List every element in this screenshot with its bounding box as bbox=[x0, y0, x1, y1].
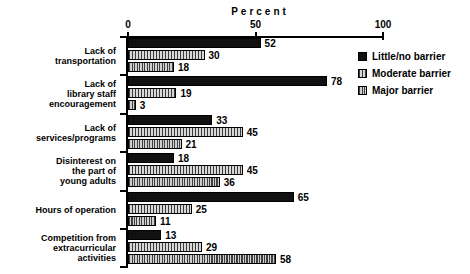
bar-0 bbox=[128, 230, 161, 240]
bar-1 bbox=[128, 204, 192, 214]
x-tick-label: 0 bbox=[113, 19, 143, 30]
legend-item-little-no-barrier: Little/no barrier bbox=[358, 48, 451, 65]
category-label: Lack of services/programs bbox=[0, 123, 116, 143]
category-label: Disinterest on the part of young adults bbox=[0, 156, 116, 186]
category-label: Competition from extracurricular activit… bbox=[0, 233, 116, 263]
bar-value-label: 13 bbox=[165, 231, 176, 241]
legend-item-moderate-barrier: Moderate barrier bbox=[358, 65, 451, 82]
bar-value-label: 30 bbox=[209, 51, 220, 61]
bar-value-label: 19 bbox=[180, 89, 191, 99]
legend-swatch-icon bbox=[358, 52, 367, 61]
bar-value-label: 52 bbox=[265, 39, 276, 49]
bar-value-label: 18 bbox=[178, 63, 189, 73]
bar-value-label: 3 bbox=[140, 101, 146, 111]
y-tick-mark bbox=[120, 190, 127, 192]
bar-2 bbox=[128, 177, 220, 187]
legend-swatch-icon bbox=[358, 69, 367, 78]
bar-value-label: 78 bbox=[331, 77, 342, 87]
bar-2 bbox=[128, 100, 136, 110]
chart-legend: Little/no barrier Moderate barrier Major… bbox=[358, 48, 451, 99]
y-tick-mark bbox=[120, 228, 127, 230]
bar-2 bbox=[128, 62, 174, 72]
category-label: Hours of operation bbox=[0, 205, 116, 215]
bar-value-label: 33 bbox=[216, 116, 227, 126]
legend-item-major-barrier: Major barrier bbox=[358, 82, 451, 99]
bar-value-label: 36 bbox=[224, 178, 235, 188]
bar-chart: Percent 050100 Lack of transportationLac… bbox=[0, 0, 470, 274]
bar-2 bbox=[128, 139, 182, 149]
legend-item-label: Major barrier bbox=[372, 85, 433, 96]
y-tick-mark bbox=[120, 36, 127, 38]
bar-0 bbox=[128, 115, 212, 125]
x-tick-label: 100 bbox=[368, 19, 398, 30]
x-tick-label: 50 bbox=[241, 19, 271, 30]
y-tick-mark bbox=[120, 74, 127, 76]
bar-value-label: 58 bbox=[280, 255, 291, 265]
y-tick-mark bbox=[120, 266, 127, 268]
bar-1 bbox=[128, 242, 202, 252]
bar-1 bbox=[128, 127, 243, 137]
legend-swatch-icon bbox=[358, 86, 367, 95]
bar-value-label: 45 bbox=[247, 166, 258, 176]
bar-2 bbox=[128, 216, 156, 226]
bar-value-label: 11 bbox=[160, 217, 171, 227]
bar-value-label: 29 bbox=[206, 243, 217, 253]
bar-1 bbox=[128, 88, 176, 98]
bar-value-label: 65 bbox=[298, 193, 309, 203]
y-tick-mark bbox=[120, 113, 127, 115]
bar-1 bbox=[128, 165, 243, 175]
bar-value-label: 25 bbox=[196, 205, 207, 215]
bar-value-label: 45 bbox=[247, 128, 258, 138]
category-label: Lack of library staff encouragement bbox=[0, 79, 116, 109]
legend-item-label: Little/no barrier bbox=[372, 51, 445, 62]
bar-0 bbox=[128, 38, 261, 48]
category-label: Lack of transportation bbox=[0, 46, 116, 66]
bar-0 bbox=[128, 76, 327, 86]
bar-0 bbox=[128, 192, 294, 202]
bar-0 bbox=[128, 153, 174, 163]
x-tick-mark bbox=[382, 32, 384, 40]
bar-value-label: 18 bbox=[178, 154, 189, 164]
chart-axis-title: Percent bbox=[170, 6, 350, 17]
legend-item-label: Moderate barrier bbox=[372, 68, 451, 79]
bar-1 bbox=[128, 50, 205, 60]
bar-value-label: 21 bbox=[186, 140, 197, 150]
bar-2 bbox=[128, 254, 276, 264]
y-tick-mark bbox=[120, 151, 127, 153]
